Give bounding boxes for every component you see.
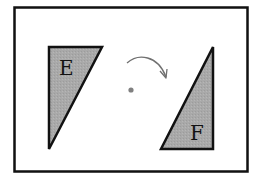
triangle-e-label: E (59, 56, 74, 80)
center-point (128, 87, 133, 92)
rotation-diagram: E F (0, 0, 261, 177)
triangle-f-label: F (190, 121, 204, 145)
